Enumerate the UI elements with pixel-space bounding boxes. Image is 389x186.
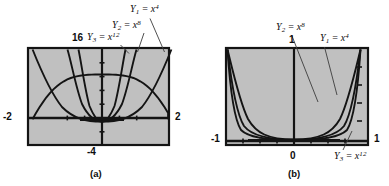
panel-b-label-y1-exp: 4 xyxy=(345,32,349,40)
panel-b-caption: (b) xyxy=(288,169,300,179)
figure-graphing-calculator-screens: Y1 = x4 Y2 = x8 Y3 = x12 16 -2 2 -4 (a) xyxy=(0,0,389,186)
panel-b-label-y3-eq: = xyxy=(343,150,354,161)
panel-b-label-y2-exp: 8 xyxy=(301,21,305,29)
panel-b-label-y3: Y3 = x12 xyxy=(334,151,367,163)
panel-b-xmin-label: -1 xyxy=(211,134,220,144)
panel-b-ymax-label: 1 xyxy=(289,35,295,45)
panel-b-graphics xyxy=(0,0,389,186)
panel-b-xzero-label: 0 xyxy=(290,151,296,161)
panel-b-label-y1: Y1 = x4 xyxy=(320,33,349,45)
panel-b-label-y3-exp: 12 xyxy=(359,150,366,158)
panel-b-label-y2: Y2 = x8 xyxy=(276,22,305,34)
panel-b-xmax-label: 1 xyxy=(374,134,380,144)
panel-b-label-y1-eq: = xyxy=(329,32,340,43)
panel-b-label-y2-eq: = xyxy=(285,21,296,32)
